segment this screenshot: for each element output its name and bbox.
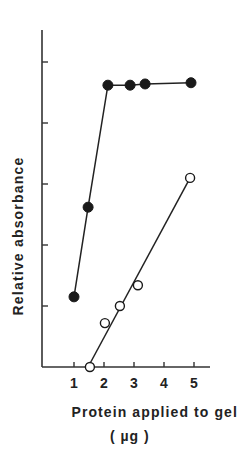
open-circle-marker: [115, 302, 124, 311]
filled-circle-marker: [125, 80, 135, 90]
chart-plot-area: 12345: [0, 0, 246, 468]
x-axis-label-wrap: Protein applied to gel: [0, 404, 246, 420]
x-tick-label: 4: [160, 375, 168, 391]
x-tick-label: 2: [100, 375, 108, 391]
filled-circle-marker: [83, 202, 93, 212]
filled-circle-marker: [69, 292, 79, 302]
open-circle-marker: [186, 173, 195, 182]
open-series-fit-line: [88, 178, 190, 367]
filled-circle-marker: [103, 80, 113, 90]
x-axis-unit: ( µg ): [110, 428, 150, 444]
series-points: [69, 78, 196, 372]
open-circle-marker: [85, 363, 94, 372]
filled-circle-marker: [140, 79, 150, 89]
x-tick-label: 5: [190, 375, 198, 391]
x-tick-labels: 12345: [70, 375, 198, 391]
open-circle-marker: [133, 281, 142, 290]
y-axis-label: Relative absorbance: [10, 157, 26, 316]
series-lines: [74, 83, 191, 367]
axes: [42, 30, 210, 367]
x-axis-label: Protein applied to gel: [71, 404, 246, 420]
filled-circle-marker: [186, 78, 196, 88]
x-tick-label: 1: [70, 375, 78, 391]
open-circle-marker: [100, 319, 109, 328]
filled-series-line: [74, 83, 191, 297]
x-tick-label: 3: [130, 375, 138, 391]
